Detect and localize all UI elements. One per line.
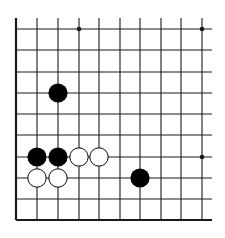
go-board (0, 0, 225, 238)
black-stone (48, 83, 67, 102)
black-stone (48, 147, 67, 166)
black-stone (130, 168, 149, 187)
white-stone (70, 148, 88, 166)
star-point (200, 155, 205, 160)
board-grid (16, 18, 212, 220)
white-stone (90, 148, 108, 166)
black-stone (27, 147, 46, 166)
white-stone (49, 169, 67, 187)
star-point (200, 27, 205, 32)
star-point (77, 27, 82, 32)
white-stone (28, 169, 46, 187)
